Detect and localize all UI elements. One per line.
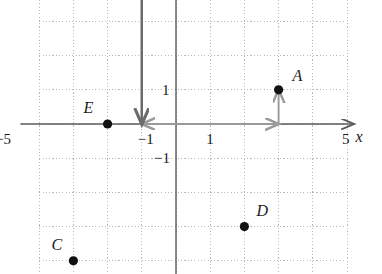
y-tick-label-neg1: −1 — [154, 151, 170, 166]
axes — [20, 0, 353, 274]
x-axis-label: x — [356, 129, 363, 145]
data-point-d — [240, 222, 249, 231]
data-point-e — [103, 119, 112, 128]
x-tick-label-neg5: −5 — [0, 132, 11, 147]
x-tick-label-1: 1 — [206, 132, 214, 147]
point-label-d: D — [256, 203, 268, 219]
plot-canvas — [0, 0, 382, 274]
x-tick-label-5: 5 — [342, 132, 350, 147]
x-tick-label-neg1: −1 — [138, 132, 154, 147]
translation-vectors — [142, 0, 279, 124]
grid-lines — [39, 0, 347, 274]
data-point-a — [274, 85, 283, 94]
point-label-a: A — [293, 68, 303, 84]
point-label-c: C — [51, 237, 62, 253]
coordinate-plane-figure: ACDE−5−1151−1x — [0, 0, 382, 274]
data-point-c — [69, 256, 78, 265]
point-label-e: E — [84, 100, 94, 116]
y-tick-label-1: 1 — [162, 83, 170, 98]
